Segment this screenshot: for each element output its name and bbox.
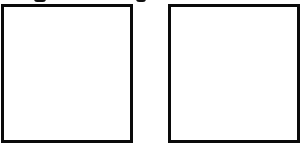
glyph-descender <box>136 0 146 2</box>
cropped-heading-fragment-left <box>34 0 46 2</box>
cropped-heading-fragment-right <box>136 0 146 2</box>
panel-left <box>1 4 133 143</box>
glyph-descender <box>34 0 46 2</box>
panel-right <box>168 4 300 143</box>
